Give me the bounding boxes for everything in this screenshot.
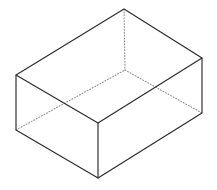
isometric-box-figure [0, 0, 217, 190]
vertical-back-hidden-edge [124, 9, 125, 70]
box-drawing-svg [0, 0, 217, 190]
face-left-outer [16, 75, 98, 178]
